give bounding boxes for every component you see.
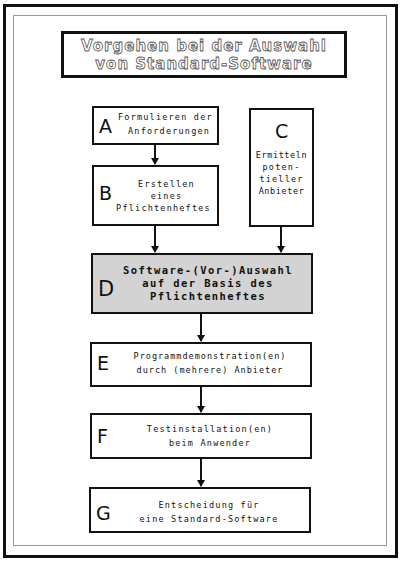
step-e-box: E Programmdemonstration(en) durch (mehre… (90, 342, 312, 387)
step-e-line-2: durch (mehrere) Anbieter (112, 364, 308, 376)
arrow-f-to-g (200, 459, 202, 486)
step-f-line-1: Testinstallation(en) (112, 423, 308, 435)
step-a-line-1: Formulieren der (118, 111, 218, 123)
arrow-e-to-f (200, 387, 202, 412)
step-f-line-2: beim Anwender (112, 437, 308, 449)
step-b-letter: B (99, 184, 112, 203)
step-e-letter: E (97, 354, 109, 373)
step-c-line-3: tieller (251, 173, 312, 185)
step-c-line-1: Ermitteln (251, 149, 312, 161)
arrow-d-to-e (200, 314, 202, 341)
step-g-line-2: eine Standard-Software (111, 513, 307, 525)
step-c-letter: C (275, 122, 288, 141)
arrow-b-to-d (154, 226, 156, 252)
step-e-line-1: Programmdemonstration(en) (112, 350, 308, 362)
step-g-line-1: Entscheidung für (111, 499, 307, 511)
step-d-line-3: Pflichtenheftes (103, 290, 313, 303)
step-g-box: G Entscheidung für eine Standard-Softwar… (89, 487, 311, 533)
step-d-line-1: Software-(Vor-)Auswahl (103, 264, 313, 277)
step-a-letter: A (99, 117, 112, 136)
step-c-line-2: poten- (251, 161, 312, 173)
arrow-c-to-d (280, 227, 282, 252)
step-c-line-4: Anbieter (251, 185, 312, 197)
step-b-line-2: eines (114, 190, 219, 202)
title-box: Vorgehen bei der Auswahl von Standard-So… (61, 31, 347, 78)
step-d-box: D Software-(Vor-)Auswahl auf der Basis d… (91, 253, 313, 314)
step-g-letter: G (96, 504, 111, 523)
step-d-line-2: auf der Basis des (103, 277, 313, 290)
step-b-line-3: Pflichtenheftes (108, 202, 219, 214)
step-a-box: A Formulieren der Anforderungen (92, 106, 219, 145)
title-line-2: von Standard-Software (95, 55, 312, 73)
step-f-box: F Testinstallation(en) beim Anwender (90, 413, 312, 459)
step-a-line-2: Anforderungen (128, 125, 218, 137)
step-c-box: C Ermitteln poten- tieller Anbieter (249, 108, 314, 227)
step-f-letter: F (97, 427, 108, 446)
title-line-1: Vorgehen bei der Auswahl (81, 37, 327, 55)
step-b-box: B Erstellen eines Pflichtenheftes (92, 165, 219, 226)
arrow-a-to-b (154, 145, 156, 164)
step-b-line-1: Erstellen (114, 178, 219, 190)
